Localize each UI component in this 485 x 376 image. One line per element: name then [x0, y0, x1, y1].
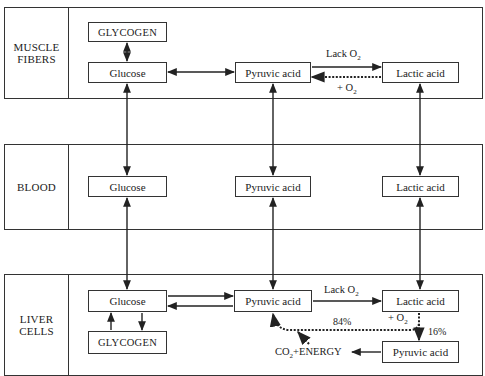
node-blood-lactic: Lactic acid	[382, 176, 459, 197]
node-liver-lactic: Lactic acid	[382, 290, 459, 312]
node-liver-pyruvic: Pyruvic acid	[234, 290, 312, 312]
edge-label-muscle-lack-o2: Lack O2	[326, 48, 361, 62]
label-blood: BLOOD	[17, 181, 56, 193]
label-liver-line2: CELLS	[19, 325, 54, 337]
label-liver-line1: LIVER	[20, 313, 53, 325]
node-blood-glucose: Glucose	[88, 176, 167, 197]
panel-label-muscle: MUSCLE FIBERS	[5, 8, 69, 98]
panel-label-blood: BLOOD	[5, 145, 69, 229]
node-liver-pyruvic-2: Pyruvic acid	[382, 341, 459, 363]
label-muscle-line1: MUSCLE	[14, 41, 60, 53]
node-muscle-lactic: Lactic acid	[382, 62, 459, 83]
node-blood-pyruvic: Pyruvic acid	[235, 176, 311, 197]
panel-muscle-fibers: MUSCLE FIBERS	[4, 7, 483, 99]
edge-label-84-percent: 84%	[333, 316, 351, 327]
edge-label-liver-plus-o2: + O2	[388, 312, 408, 326]
panel-label-liver: LIVER CELLS	[5, 275, 69, 375]
edge-label-muscle-plus-o2: + O2	[337, 82, 357, 96]
node-muscle-glycogen: GLYCOGEN	[88, 22, 167, 42]
edge-label-16-percent: 16%	[428, 326, 446, 337]
node-muscle-pyruvic: Pyruvic acid	[235, 62, 311, 83]
edge-label-liver-lack-o2: Lack O2	[324, 284, 359, 298]
node-liver-glycogen: GLYCOGEN	[88, 331, 167, 354]
label-muscle-line2: FIBERS	[17, 53, 56, 65]
node-muscle-glucose: Glucose	[88, 62, 167, 83]
node-liver-glucose: Glucose	[88, 290, 167, 312]
edge-label-co2-energy: CO2+ENERGY	[275, 346, 342, 360]
